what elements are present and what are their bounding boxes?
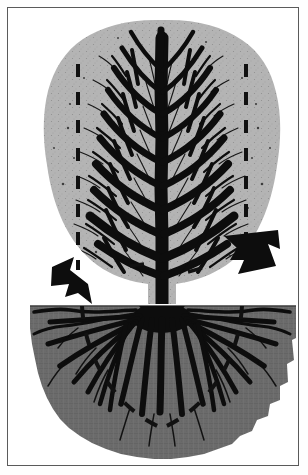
- tree-illustration: [8, 8, 298, 465]
- figure-root: [0, 0, 308, 475]
- illustration-stage: [8, 8, 298, 465]
- arrow-to-soil-left: [51, 257, 92, 304]
- canopy-tick-left: [130, 264, 144, 266]
- figure-frame: [7, 7, 299, 466]
